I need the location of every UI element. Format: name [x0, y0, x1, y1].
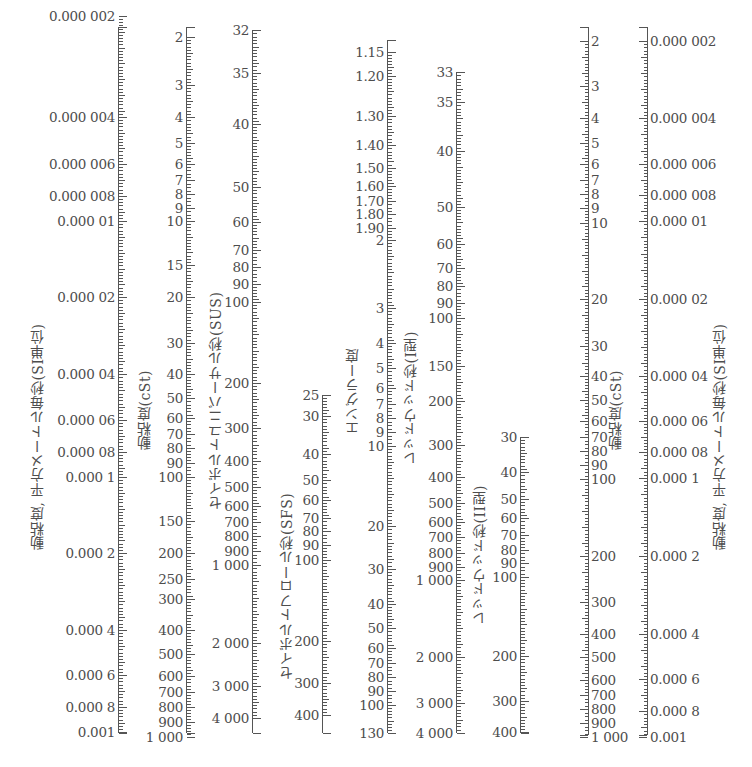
minor-tick: [388, 225, 392, 226]
tick-label: 30: [500, 430, 517, 444]
minor-tick: [323, 398, 327, 399]
minor-tick: [585, 727, 589, 728]
minor-tick: [582, 158, 588, 159]
minor-tick: [323, 470, 329, 471]
major-tick: [457, 366, 465, 367]
tick-label: 0.000 006: [49, 157, 115, 171]
minor-tick: [119, 345, 125, 346]
minor-tick: [521, 713, 525, 714]
minor-tick: [644, 475, 648, 476]
tick-label: 80: [436, 279, 453, 293]
minor-tick: [457, 265, 461, 266]
minor-tick: [187, 79, 191, 80]
minor-tick: [119, 598, 123, 599]
minor-tick: [457, 716, 461, 717]
minor-tick: [388, 456, 392, 457]
minor-tick: [644, 170, 648, 171]
minor-tick: [253, 389, 257, 390]
minor-tick: [644, 202, 648, 203]
minor-tick: [119, 697, 123, 698]
minor-tick: [585, 605, 589, 606]
tick-label: 4: [376, 336, 384, 350]
minor-tick: [585, 312, 589, 313]
minor-tick: [585, 397, 589, 398]
minor-tick: [641, 105, 647, 106]
minor-tick: [457, 513, 461, 514]
tick-label: 80: [166, 441, 183, 455]
minor-tick: [585, 324, 589, 325]
minor-tick: [187, 670, 193, 671]
minor-tick: [253, 290, 257, 291]
minor-tick: [644, 115, 648, 116]
minor-tick: [323, 576, 329, 577]
minor-tick: [457, 92, 461, 93]
minor-tick: [585, 472, 589, 473]
minor-tick: [253, 178, 257, 179]
minor-tick: [187, 411, 191, 412]
minor-tick: [644, 504, 648, 505]
minor-tick: [323, 464, 327, 465]
minor-tick: [323, 664, 327, 665]
minor-tick: [585, 177, 589, 178]
minor-tick: [187, 53, 193, 54]
minor-tick: [585, 258, 589, 259]
minor-tick: [187, 284, 191, 285]
minor-tick: [457, 141, 461, 142]
minor-tick: [585, 427, 589, 428]
minor-tick: [119, 123, 123, 124]
minor-tick: [585, 96, 589, 97]
major-tick: [323, 416, 331, 417]
minor-tick: [323, 589, 327, 590]
minor-tick: [119, 174, 123, 175]
major-tick: [457, 268, 465, 269]
minor-tick: [644, 540, 648, 541]
minor-tick: [457, 340, 461, 341]
minor-tick: [585, 412, 589, 413]
minor-tick: [644, 289, 648, 290]
major-tick: [580, 86, 588, 87]
minor-tick: [253, 341, 257, 342]
minor-tick: [521, 538, 525, 539]
minor-tick: [323, 651, 327, 652]
minor-tick: [644, 701, 648, 702]
minor-tick: [585, 592, 589, 593]
minor-tick: [253, 692, 257, 693]
minor-tick: [585, 64, 589, 65]
minor-tick: [119, 633, 123, 634]
minor-tick: [457, 404, 461, 405]
minor-tick: [323, 512, 327, 513]
tick-label: 25: [302, 388, 319, 402]
minor-tick: [388, 415, 392, 416]
minor-tick: [388, 148, 392, 149]
minor-tick: [388, 516, 392, 517]
minor-tick: [187, 602, 191, 603]
major-tick: [639, 478, 647, 479]
minor-tick: [585, 699, 589, 700]
minor-tick: [323, 583, 327, 584]
tick-label: 800: [591, 702, 616, 716]
major-tick: [457, 477, 465, 478]
minor-tick: [119, 701, 123, 702]
minor-tick: [644, 443, 648, 444]
minor-tick: [388, 543, 394, 544]
minor-tick: [521, 726, 525, 727]
minor-tick: [521, 456, 525, 457]
minor-tick: [187, 152, 191, 153]
tick-label: 800: [428, 546, 453, 560]
minor-tick: [187, 380, 191, 381]
minor-tick: [644, 524, 648, 525]
minor-tick: [323, 686, 327, 687]
minor-tick: [253, 614, 259, 615]
minor-tick: [521, 679, 525, 680]
major-tick: [119, 164, 127, 165]
major-tick: [388, 648, 396, 649]
scale-title-sfs: セイボルトフロール秒(SFS): [277, 470, 297, 680]
minor-tick: [585, 290, 589, 291]
minor-tick: [585, 660, 589, 661]
tick-label: 7: [376, 397, 384, 411]
minor-tick: [187, 75, 191, 76]
minor-tick: [388, 375, 392, 376]
minor-tick: [457, 493, 463, 494]
tick-label: 0.000 008: [49, 189, 115, 203]
minor-tick: [187, 262, 191, 263]
